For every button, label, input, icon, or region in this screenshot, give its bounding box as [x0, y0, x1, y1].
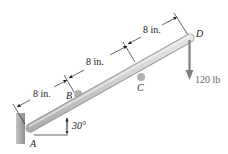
lever-diagram: 8 in. 8 in. 8 in. 30° 120 lb A B C D: [0, 0, 228, 154]
lever-beam: [30, 37, 190, 129]
force-arrow: [186, 40, 194, 80]
dimension-extension-lines: [13, 13, 188, 124]
dimension-label-ab: 8 in.: [33, 88, 51, 99]
angle-label: 30°: [71, 120, 86, 131]
point-label-b: B: [66, 90, 72, 101]
point-label-c: C: [137, 82, 144, 93]
pin-c: [137, 73, 145, 81]
wall-support: [16, 113, 25, 144]
dimension-label-bc: 8 in.: [86, 56, 104, 67]
dimension-label-cd: 8 in.: [143, 24, 161, 35]
force-label: 120 lb: [195, 74, 220, 85]
point-label-a: A: [29, 138, 37, 149]
point-label-d: D: [195, 28, 204, 39]
